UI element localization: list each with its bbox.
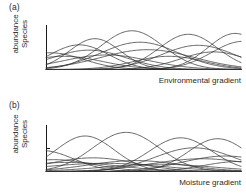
panel-a: (a) Species abundance Environmental grad…: [0, 0, 246, 96]
panel-b-curves-svg: [45, 124, 242, 174]
panel-b-y-axis-label-line1: Species: [20, 120, 29, 148]
panel-b-x-axis-label: Moisture gradient: [179, 178, 241, 188]
species-curve-species-4: [46, 136, 241, 171]
panel-a-species-curves: [46, 31, 241, 70]
panel-b-y-axis-label-line2: abundance: [11, 114, 20, 153]
panel-a-curves-svg: [45, 24, 242, 72]
panel-a-tag: (a): [9, 2, 20, 12]
species-curve-species-13: [46, 52, 241, 70]
panel-b-species-curves: [46, 132, 241, 171]
panel-a-plot-area: [45, 24, 242, 72]
panel-b-tag: (b): [9, 100, 20, 110]
species-curve-species-15: [46, 41, 241, 69]
panel-a-y-axis-label-line2: abundance: [11, 14, 20, 53]
panel-a-x-axis-label: Environmental gradient: [159, 76, 241, 86]
figure-species-abundance-gradients: (a) Species abundance Environmental grad…: [0, 0, 246, 195]
panel-b: (b) Species abundance Moisture gradient: [0, 96, 246, 195]
panel-a-y-axis-label-line1: Species: [20, 20, 29, 48]
panel-b-y-axis-label: Species abundance: [8, 101, 32, 167]
panel-b-plot-area: [45, 124, 242, 174]
